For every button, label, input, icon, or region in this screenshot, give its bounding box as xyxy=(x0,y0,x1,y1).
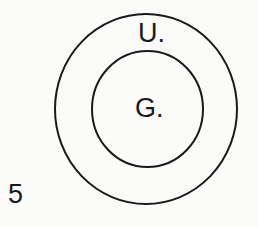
outer-circle-label: U. xyxy=(138,20,165,47)
figure-number: 5 xyxy=(8,181,23,208)
inner-circle-label: G. xyxy=(135,95,164,122)
euler-diagram xyxy=(0,0,258,227)
